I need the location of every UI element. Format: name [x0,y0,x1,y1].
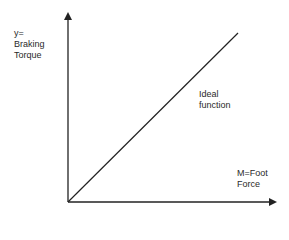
y-axis-label: y= Braking Torque [14,28,45,61]
ideal-function-label-line: Ideal [199,89,231,100]
y-axis-label-line: Torque [14,50,45,61]
x-axis-label-line: M=Foot [237,168,268,179]
ideal-function-label-line: function [199,100,231,111]
x-axis-label: M=Foot Force [237,168,268,190]
ideal-function-label: Ideal function [199,89,231,111]
x-axis-label-line: Force [237,179,268,190]
ideal-function-line [68,33,238,202]
y-axis-label-line: Braking [14,39,45,50]
y-axis-label-line: y= [14,28,45,39]
